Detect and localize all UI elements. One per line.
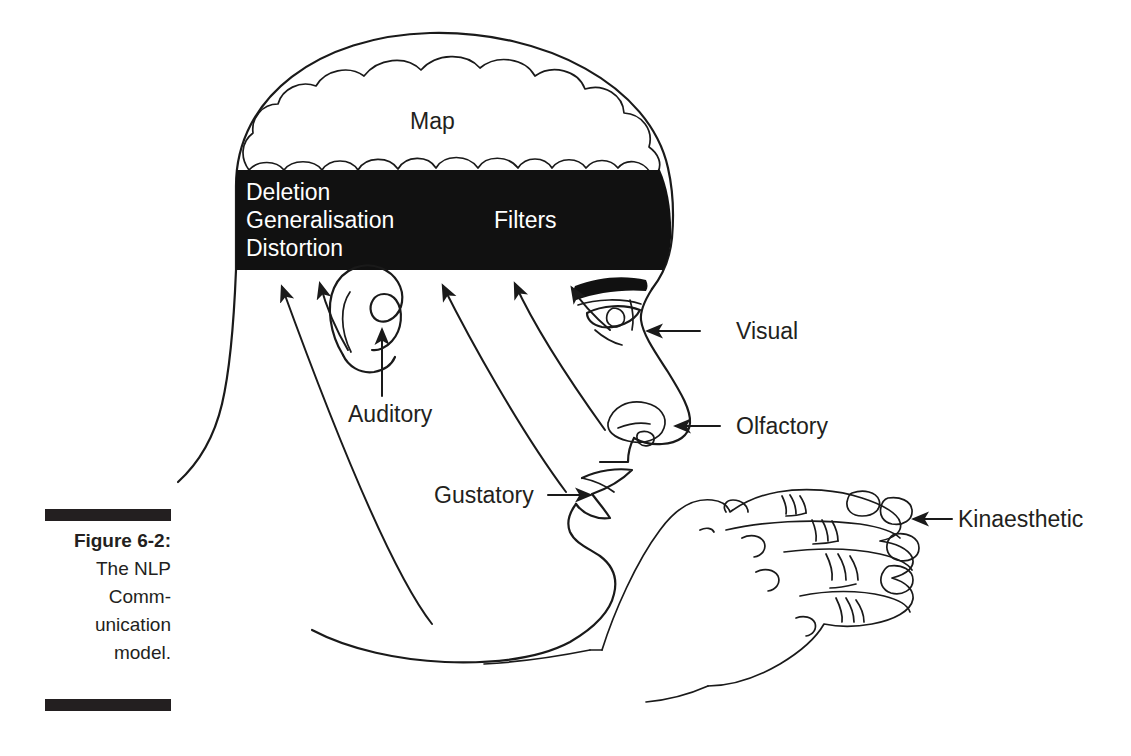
arrow-olfactory-to-filters xyxy=(515,284,605,430)
caption-line-1: The NLP xyxy=(45,555,171,583)
brain-map-cloud: Map xyxy=(243,57,660,172)
callout-visual: Visual xyxy=(648,318,798,344)
filter-item-deletion: Deletion xyxy=(246,179,330,205)
thumb-knuckle xyxy=(724,500,748,512)
callout-olfactory: Olfactory xyxy=(676,413,829,439)
eyebrow xyxy=(574,277,648,300)
figure-page: Map Deletion Generalisation Distortion F… xyxy=(0,0,1131,756)
caption-figure-number: Figure 6-2: xyxy=(45,527,171,555)
label-gustatory: Gustatory xyxy=(434,482,534,508)
hand xyxy=(484,490,919,702)
figure-caption: Figure 6-2: The NLP Comm- unication mode… xyxy=(45,527,171,667)
chin-jaw-line xyxy=(445,504,615,662)
nostril-region xyxy=(608,402,665,446)
eye-lash-line xyxy=(630,300,633,330)
forearm-line xyxy=(484,650,590,664)
knuckle-creases xyxy=(700,495,864,636)
jaw-lower-sweep xyxy=(312,630,445,662)
caption-line-4: model. xyxy=(45,639,171,667)
filter-item-distortion: Distortion xyxy=(246,235,343,261)
arrow-auditory-to-filters xyxy=(320,284,348,350)
callout-kinaesthetic: Kinaesthetic xyxy=(914,506,1083,532)
caption-rule-top xyxy=(45,509,171,521)
eye-crease-lower xyxy=(595,330,622,345)
label-auditory: Auditory xyxy=(348,401,433,427)
forearm-line-lower xyxy=(646,686,708,702)
caption-line-2: Comm- xyxy=(45,583,171,611)
eye-region xyxy=(574,277,648,345)
fingernail-2 xyxy=(880,498,912,525)
filters-band: Deletion Generalisation Distortion Filte… xyxy=(236,170,671,270)
ear xyxy=(330,265,402,372)
finger-line-3 xyxy=(800,592,910,613)
label-olfactory: Olfactory xyxy=(736,413,829,439)
filter-item-generalisation: Generalisation xyxy=(246,207,394,233)
nose-profile xyxy=(634,289,690,444)
arrow-gustatory-to-filters xyxy=(443,286,566,492)
eye-iris xyxy=(607,308,625,327)
filters-label: Filters xyxy=(494,207,557,233)
label-visual: Visual xyxy=(736,318,798,344)
ear-lobe xyxy=(343,355,395,372)
callout-auditory: Auditory xyxy=(348,330,433,427)
label-kinaesthetic: Kinaesthetic xyxy=(958,506,1083,532)
nostril-crease xyxy=(618,423,650,428)
lips-outline xyxy=(576,469,632,518)
neck-back-line xyxy=(178,270,236,482)
hand-outline xyxy=(602,490,913,686)
callout-gustatory: Gustatory xyxy=(434,482,590,508)
caption-rule-bottom xyxy=(45,699,171,711)
arrow-kinaesthetic-to-filters xyxy=(282,287,432,624)
ear-outer-helix xyxy=(330,265,402,355)
sense-arrows-group xyxy=(282,284,610,624)
finger-line-2 xyxy=(784,549,912,570)
caption-line-3: unication xyxy=(45,611,171,639)
lip-parting-line xyxy=(582,478,614,492)
map-label: Map xyxy=(410,108,455,134)
